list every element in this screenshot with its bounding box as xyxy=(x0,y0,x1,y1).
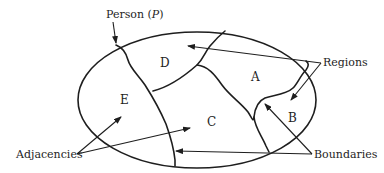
person-label: Person (P) xyxy=(106,8,164,21)
adjacencies-label: Adjacencies xyxy=(15,148,83,161)
region-label-a: A xyxy=(250,70,260,84)
person-arrow xyxy=(113,22,116,43)
regions-arrow-d xyxy=(188,46,321,63)
region-label-e: E xyxy=(120,93,129,107)
region-diagram: Person (P) D A E C B Regions Adjacencies… xyxy=(0,0,384,173)
outer-boundary-ellipse xyxy=(78,32,316,168)
regions-label: Regions xyxy=(323,56,368,69)
boundaries-label: Boundaries xyxy=(314,148,378,161)
boundaries-arrow-left xyxy=(176,151,312,154)
regions-arrow-b xyxy=(291,63,321,100)
region-label-c: C xyxy=(207,115,216,129)
region-label-d: D xyxy=(160,56,170,70)
region-label-b: B xyxy=(288,111,297,125)
